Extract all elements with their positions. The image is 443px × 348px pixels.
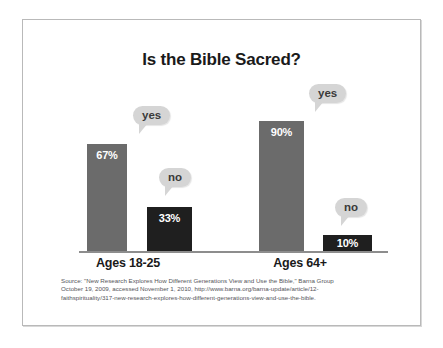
- source-citation: Source: "New Research Explores How Diffe…: [61, 277, 413, 302]
- page-title: Is the Bible Sacred?: [23, 50, 420, 70]
- bubble-tail-icon: [165, 185, 174, 196]
- bar-value-label: 90%: [259, 126, 304, 138]
- source-line-1: Source: "New Research Explores How Diffe…: [61, 277, 413, 285]
- bar-ages64plus-no[interactable]: 10%: [323, 235, 372, 251]
- bar-ages18-25-no[interactable]: 33%: [147, 207, 192, 251]
- bubble-tail-icon: [341, 215, 350, 226]
- source-line-3: faithspirituality/317-new-research-explo…: [61, 294, 413, 302]
- source-line-2: October 19, 2009, accessed November 1, 2…: [61, 285, 413, 293]
- callout-bubble-no-ages64plus: no: [335, 198, 367, 217]
- bubble-tail-icon: [139, 123, 148, 134]
- callout-bubble-yes-ages64plus: yes: [309, 84, 346, 103]
- bar-value-label: 67%: [87, 149, 127, 161]
- bar-value-label: 33%: [147, 212, 192, 224]
- callout-bubble-no-ages18-25: no: [159, 168, 191, 187]
- category-label-ages18-25: Ages 18-25: [73, 256, 183, 270]
- bar-ages64plus-yes[interactable]: 90%: [259, 121, 304, 251]
- slide-frame: Is the Bible Sacred? 67% yes 33% no 90% …: [22, 19, 421, 326]
- bubble-tail-icon: [315, 101, 324, 112]
- category-label-ages64plus: Ages 64+: [245, 256, 355, 270]
- axis-baseline: [79, 251, 388, 253]
- bar-value-label: 10%: [323, 237, 372, 249]
- callout-label: yes: [142, 109, 161, 121]
- bar-ages18-25-yes[interactable]: 67%: [87, 144, 127, 251]
- chart-plot-area: 67% yes 33% no 90% yes 10% no: [57, 78, 388, 253]
- callout-bubble-yes-ages18-25: yes: [133, 106, 170, 125]
- callout-label: no: [344, 201, 358, 213]
- callout-label: no: [168, 171, 182, 183]
- callout-label: yes: [318, 87, 337, 99]
